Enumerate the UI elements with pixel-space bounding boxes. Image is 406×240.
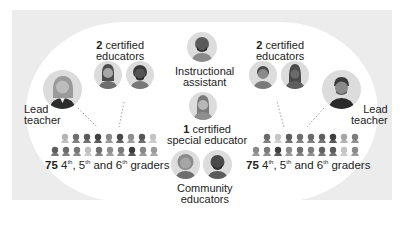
left-students-label: 75 4th, 5th and 6th graders [45, 160, 169, 171]
right-educator-1-avatar [249, 61, 277, 89]
student-icon [61, 146, 71, 156]
left-educator-1-avatar [94, 61, 122, 89]
student-icon [71, 133, 81, 143]
student-icon [72, 146, 82, 156]
student-icon [339, 146, 349, 156]
special-educator-label: 1 certified special educator [167, 124, 247, 146]
left-lead-teacher-label: Lead teacher [24, 104, 61, 126]
right-educator-2-avatar [281, 61, 309, 89]
student-icon [104, 133, 114, 143]
special-educator-avatar [189, 92, 217, 120]
student-icon [94, 146, 104, 156]
special-label-line2: special educator [167, 134, 247, 146]
student-icon [105, 146, 115, 156]
student-icon [295, 133, 305, 143]
right-students-row-2 [251, 146, 360, 156]
student-icon [317, 133, 327, 143]
student-icon [306, 146, 316, 156]
right-students-label: 75 4th, 5th and 6th graders [246, 160, 370, 171]
student-icon [83, 146, 93, 156]
left-students-count: 75 [45, 159, 58, 171]
instructional-label-line2: assistant [183, 76, 226, 88]
student-icon [284, 146, 294, 156]
community-label-line2: educators [181, 193, 229, 205]
student-icon [350, 146, 360, 156]
student-icon [306, 133, 316, 143]
right-lead-label-line2: teacher [351, 114, 388, 126]
left-students-row-1 [60, 133, 169, 143]
student-icon [115, 133, 125, 143]
instructional-assistant-avatar [187, 32, 217, 62]
student-icon [251, 146, 261, 156]
student-icon [284, 133, 294, 143]
student-icon [126, 133, 136, 143]
student-icon [60, 133, 70, 143]
right-educators-label: 2 certified educators [256, 40, 304, 62]
left-students-row-2 [50, 146, 159, 156]
community-educators-label: Community educators [177, 183, 233, 205]
student-icon [262, 133, 272, 143]
community-educator-1-avatar [171, 150, 200, 179]
graders-label: graders [328, 159, 370, 171]
graders-label: graders [127, 159, 169, 171]
community-educator-2-avatar [203, 150, 232, 179]
student-icon [328, 133, 338, 143]
student-icon [127, 146, 137, 156]
student-icon [273, 146, 283, 156]
student-icon [350, 133, 360, 143]
left-educators-label: 2 certified educators [96, 40, 144, 62]
student-icon [262, 146, 272, 156]
student-icon [317, 146, 327, 156]
student-icon [82, 133, 92, 143]
separator: and [90, 159, 116, 171]
student-icon [295, 146, 305, 156]
student-icon [138, 146, 148, 156]
student-icon [273, 133, 283, 143]
student-icon [328, 146, 338, 156]
separator: and [291, 159, 317, 171]
right-students-count: 75 [246, 159, 259, 171]
instructional-assistant-label: Instructional assistant [175, 66, 234, 88]
right-students-row-1 [262, 133, 371, 143]
left-educator-2-avatar [126, 61, 154, 89]
right-lead-teacher-label: Lead teacher [351, 104, 388, 126]
student-icon [149, 146, 159, 156]
student-icon [116, 146, 126, 156]
student-icon [339, 133, 349, 143]
student-icon [137, 133, 147, 143]
student-icon [148, 133, 158, 143]
student-icon [93, 133, 103, 143]
left-lead-label-line2: teacher [24, 114, 61, 126]
student-icon [50, 146, 60, 156]
